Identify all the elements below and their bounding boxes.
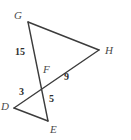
segment-de xyxy=(14,108,48,121)
length-label-fe: 5 xyxy=(49,94,54,104)
segment-hd xyxy=(14,50,99,108)
length-label-gf: 15 xyxy=(15,47,25,57)
vertex-label-e: E xyxy=(50,124,57,135)
vertex-label-g: G xyxy=(14,10,22,21)
geometry-diagram-svg xyxy=(0,0,131,140)
length-label-df: 3 xyxy=(19,87,24,97)
segment-gh xyxy=(28,22,99,50)
length-label-fh: 9 xyxy=(64,72,69,82)
vertex-label-d: D xyxy=(1,101,9,112)
vertex-label-f: F xyxy=(43,64,50,75)
vertex-label-h: H xyxy=(105,45,113,56)
geometry-figure: G H F D E 15 9 3 5 xyxy=(0,0,131,140)
